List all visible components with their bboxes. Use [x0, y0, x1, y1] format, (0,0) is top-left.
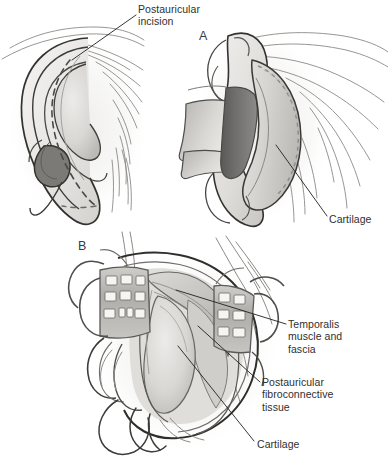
panel-letter-a: A — [199, 29, 208, 43]
label-cartilage-panel-a: Cartilage — [329, 213, 371, 225]
retractor-left-teeth — [104, 275, 145, 318]
label-postauricular-incision: Postauricular incision — [138, 3, 200, 28]
panel-letter-b: B — [78, 239, 87, 253]
label-cartilage-panel-b: Cartilage — [257, 438, 299, 450]
label-postauricular-fibroconnective-tissue: Postauricular fibroconnective tissue — [262, 376, 333, 413]
label-temporalis-muscle-and-fascia: Temporalis muscle and fascia — [288, 318, 342, 355]
external-auditory-canal — [34, 146, 70, 187]
